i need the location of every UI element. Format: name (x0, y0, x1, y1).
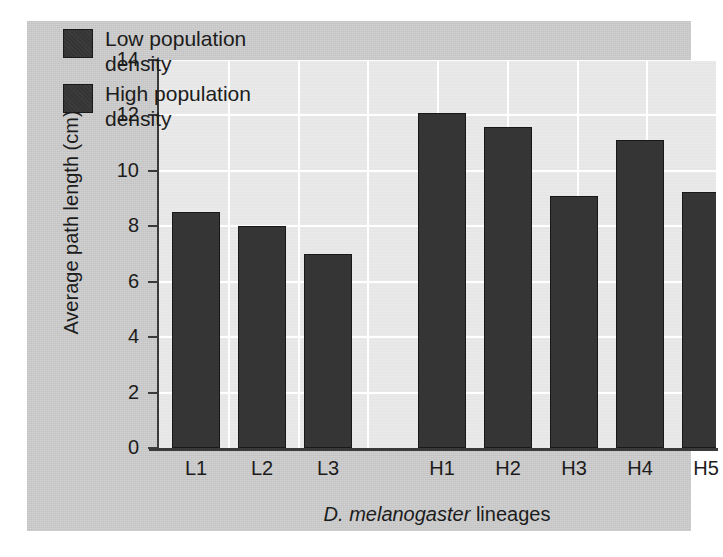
bar-l1 (172, 212, 220, 448)
x-axis-title-rest: lineages (470, 503, 550, 525)
y-axis-tick (148, 281, 158, 283)
x-axis-tick-label-l3: L3 (304, 458, 352, 478)
bar-h4 (616, 140, 664, 448)
y-axis-tick-label: 4 (93, 326, 139, 346)
legend-label-line2: density (105, 107, 172, 130)
gridline-vertical (367, 60, 369, 448)
x-axis-tick-label-h2: H2 (484, 458, 532, 478)
y-axis-tick-label-text: 6 (93, 271, 139, 291)
y-axis-tick-label: 6 (93, 271, 139, 291)
legend-item-low-population-density: Low population density (63, 27, 323, 76)
y-axis-tick-label-text: 8 (93, 215, 139, 235)
y-axis-tick-label: 0 (93, 437, 139, 457)
bar-h1 (418, 113, 466, 448)
x-axis-tick-label-h1: H1 (418, 458, 466, 478)
bar-l3 (304, 254, 352, 448)
y-axis-tick (148, 336, 158, 338)
legend-swatch-icon (63, 84, 93, 113)
x-axis-tick-label-l1: L1 (172, 458, 220, 478)
bar-l2 (238, 226, 286, 448)
x-axis-tick-label-h3: H3 (550, 458, 598, 478)
y-axis-tick-label: 8 (93, 215, 139, 235)
bar-h3 (550, 196, 598, 448)
y-axis-tick (148, 170, 158, 172)
x-axis-tick-label-h5: H5 (682, 458, 723, 478)
legend-label: Low population density (105, 27, 246, 76)
x-axis-tick-label-l2: L2 (238, 458, 286, 478)
y-axis-tick-label-text: 10 (93, 160, 139, 180)
y-axis-tick-label: 10 (93, 160, 139, 180)
chart-panel: 02468101214 Average path length (cm) L1L… (27, 21, 691, 531)
x-axis-title-species: D. melanogaster (324, 503, 471, 525)
bar-h5 (682, 192, 716, 448)
legend: Low population density High population d… (63, 27, 323, 137)
legend-label-line1: High population (105, 82, 251, 105)
bar-h2 (484, 127, 532, 448)
x-axis-tick-label-h4: H4 (616, 458, 664, 478)
legend-label-line2: density (105, 52, 172, 75)
y-axis-tick (148, 447, 158, 449)
legend-label-line1: Low population (105, 27, 246, 50)
y-axis-tick (148, 392, 158, 394)
y-axis-tick-label-text: 0 (93, 437, 139, 457)
x-axis-spine (149, 448, 718, 451)
y-axis-tick (148, 225, 158, 227)
y-axis-tick-label: 2 (93, 382, 139, 402)
legend-swatch-icon (63, 29, 93, 58)
x-axis-title: D. melanogaster lineages (158, 503, 716, 526)
legend-item-high-population-density: High population density (63, 82, 323, 131)
y-axis-tick-label-text: 4 (93, 326, 139, 346)
y-axis-tick-label-text: 2 (93, 382, 139, 402)
legend-label: High population density (105, 82, 251, 131)
